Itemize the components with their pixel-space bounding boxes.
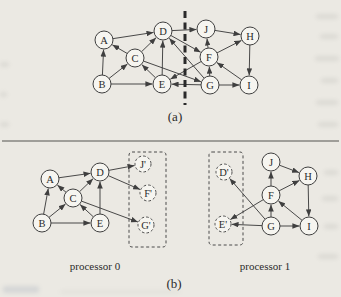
node-label-B: B <box>38 218 45 229</box>
node-label-F': F' <box>144 188 152 199</box>
scan-artifact <box>316 14 338 19</box>
node-label-I: I <box>247 80 251 91</box>
edge-D-to-J <box>172 29 196 30</box>
edge-F-to-E' <box>230 200 263 220</box>
edge-B-to-C <box>109 64 127 78</box>
edge-B-to-C <box>49 204 66 217</box>
edge-C-to-A <box>112 45 127 54</box>
node-label-A: A <box>100 35 108 46</box>
processor-1-subgraph: JHFGID'E' <box>209 152 318 245</box>
processor-0-subgraph: ABCDEJ'F'G' <box>33 152 166 247</box>
edge-C-to-A <box>57 185 66 192</box>
node-label-E: E <box>97 218 103 229</box>
edge-C-to-D <box>79 179 93 192</box>
edge-H-to-I <box>308 185 309 216</box>
node-label-F: F <box>268 190 274 201</box>
scan-artifact <box>324 224 338 229</box>
edge-G-to-E' <box>232 224 262 225</box>
edge-H-to-I <box>249 45 250 75</box>
edge-E-to-C <box>142 65 156 78</box>
scan-artifact <box>0 92 7 97</box>
edge-I-to-F <box>278 201 302 220</box>
scan-artifact <box>324 170 338 175</box>
node-label-G: G <box>267 221 275 232</box>
edge-D-to-J' <box>109 166 135 171</box>
node-label-H: H <box>246 31 254 42</box>
edge-B-to-A <box>102 50 103 75</box>
node-label-G: G <box>206 80 214 91</box>
node-label-J: J <box>204 24 208 35</box>
scan-artifact <box>321 78 338 83</box>
edge-D-to-F' <box>108 176 140 190</box>
node-label-C: C <box>69 193 76 204</box>
edge-E-to-C <box>80 205 93 217</box>
graph-partition-figure: ABCDEFGHIJABCDEJ'F'G'JHFGID'E' <box>0 0 341 297</box>
node-label-H: H <box>304 171 312 182</box>
scan-artifact <box>60 290 180 294</box>
edge-C-to-D <box>141 38 156 52</box>
node-label-J': J' <box>140 159 146 170</box>
scan-artifact <box>3 286 39 293</box>
scanned-paper-figure: ABCDEFGHIJABCDEJ'F'G'JHFGID'E' (a) proce… <box>0 0 341 297</box>
edge-F-to-J <box>207 39 208 49</box>
node-label-E': E' <box>219 219 227 230</box>
edge-A-to-D <box>59 173 91 177</box>
node-label-A: A <box>46 174 54 185</box>
edge-F-to-H <box>279 180 299 191</box>
node-label-J: J <box>269 157 273 168</box>
scan-artifact <box>0 62 9 67</box>
edge-I-to-F <box>217 63 242 80</box>
node-label-B: B <box>98 79 105 90</box>
edge-J-to-H <box>215 30 241 34</box>
edge-B-to-A <box>44 188 49 214</box>
global-graph: ABCDEFGHIJ <box>93 11 259 105</box>
scan-artifact <box>0 122 9 127</box>
edge-J-to-H <box>279 165 299 172</box>
edge-A-to-D <box>113 32 154 38</box>
processor-1-label: processor 1 <box>240 260 290 272</box>
node-label-F: F <box>206 52 212 63</box>
edge-G-to-D' <box>230 178 265 219</box>
edge-F-to-H <box>217 40 241 53</box>
scan-artifact <box>318 122 338 127</box>
node-label-D: D <box>159 26 167 37</box>
scan-artifact <box>315 56 339 61</box>
caption-a: (a) <box>168 109 182 125</box>
node-label-C: C <box>131 53 138 64</box>
node-label-D: D <box>96 167 104 178</box>
node-label-I: I <box>307 221 311 232</box>
edge-E-to-D <box>162 41 163 75</box>
scan-artifact <box>318 254 338 259</box>
scan-artifact <box>322 196 338 201</box>
node-label-E: E <box>159 79 165 90</box>
node-label-D': D' <box>219 167 229 178</box>
processor-0-label: processor 0 <box>70 260 120 272</box>
node-label-G': G' <box>141 220 151 231</box>
scan-artifact <box>316 100 338 105</box>
scan-artifact <box>320 34 338 39</box>
